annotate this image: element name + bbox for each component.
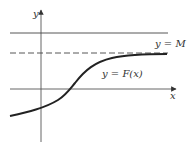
sigmoid-curve bbox=[10, 54, 167, 116]
x-axis-label: x bbox=[170, 90, 176, 101]
diagram-canvas: y x y = M y = F(x) bbox=[0, 0, 187, 147]
y-axis-label: y bbox=[32, 8, 39, 19]
curve-label: y = F(x) bbox=[101, 68, 143, 79]
upper-bound-label: y = M bbox=[154, 38, 186, 49]
